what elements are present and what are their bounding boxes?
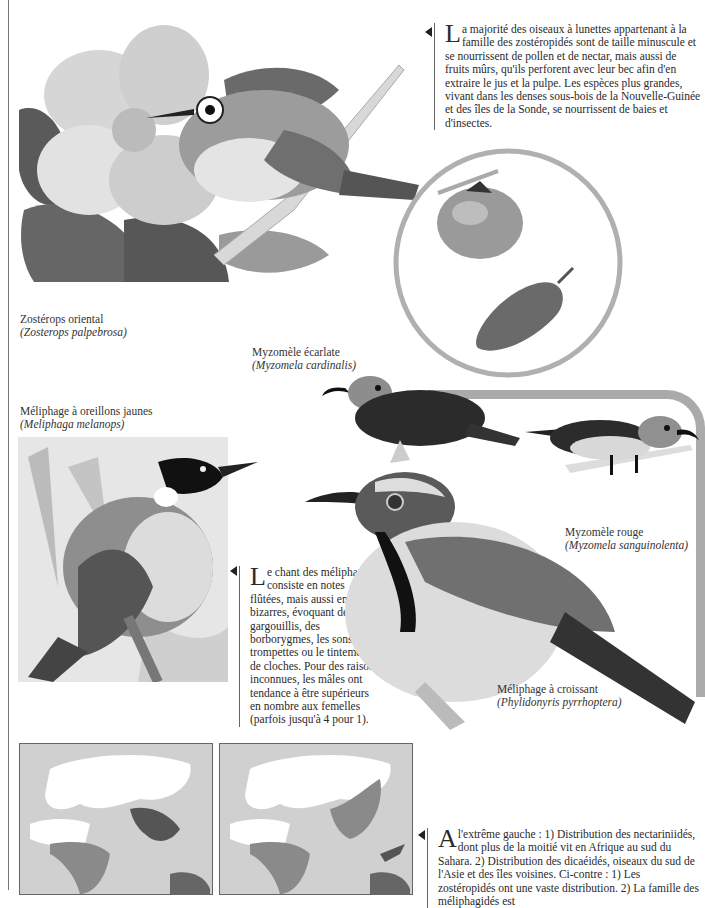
dropcap: L <box>250 567 266 587</box>
page-margin-rule <box>8 0 9 890</box>
map-2 <box>219 743 413 895</box>
caption-common-name: Méliphage à croissant <box>497 683 622 696</box>
map-1 <box>19 743 213 895</box>
caption-scientific-name: (Phylidonyris pyrrhoptera) <box>497 696 622 709</box>
caption-common-name: Zostérops oriental <box>20 313 127 326</box>
illustration-myzomela-cardinalis <box>320 368 520 468</box>
pointer-arrow-icon <box>425 27 432 37</box>
caption-common-name: Méliphage à oreillons jaunes <box>20 405 153 418</box>
illustration-zosterops <box>14 20 424 282</box>
pointer-arrow-icon <box>418 830 425 840</box>
caption-meliphage-croissant: Méliphage à croissant (Phylidonyris pyrr… <box>497 683 622 709</box>
dropcap: A <box>438 829 457 849</box>
illustration-fruit-inset <box>388 143 628 383</box>
dropcap: L <box>445 24 461 44</box>
caption-zosterops: Zostérops oriental (Zosterops palpebrosa… <box>20 313 127 339</box>
caption-scientific-name: (Zosterops palpebrosa) <box>20 326 127 339</box>
paragraph-maps: A l'extrême gauche : 1) Distribution des… <box>427 828 700 908</box>
caption-scientific-name: (Meliphaga melanops) <box>20 418 153 431</box>
caption-common-name: Myzomèle écarlate <box>252 346 356 359</box>
paragraph-text: a majorité des oiseaux à lunettes appart… <box>445 23 700 129</box>
illustration-meliphaga-melanops <box>18 437 258 682</box>
paragraph-zosteropides: La majorité des oiseaux à lunettes appar… <box>434 23 701 130</box>
caption-meliphage-oreillons: Méliphage à oreillons jaunes (Meliphaga … <box>20 405 153 431</box>
paragraph-text: l'extrême gauche : 1) Distribution des n… <box>438 828 699 907</box>
pointer-arrow-icon <box>230 566 237 576</box>
